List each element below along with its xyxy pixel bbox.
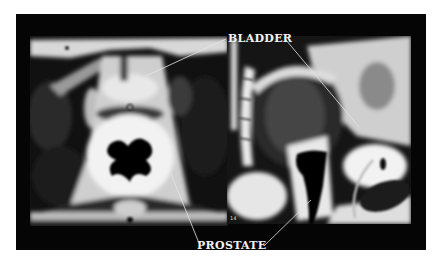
slice-number: 14 bbox=[230, 215, 236, 221]
axial-mri-image bbox=[30, 36, 228, 226]
sagittal-mri-panel bbox=[227, 36, 411, 224]
bladder-label: BLADDER bbox=[228, 32, 292, 45]
prostate-label: PROSTATE bbox=[197, 239, 266, 252]
axial-mri-panel bbox=[30, 36, 228, 226]
sagittal-mri-image bbox=[227, 36, 411, 224]
figure-frame: 14 BLADDER PROSTATE bbox=[16, 14, 426, 250]
